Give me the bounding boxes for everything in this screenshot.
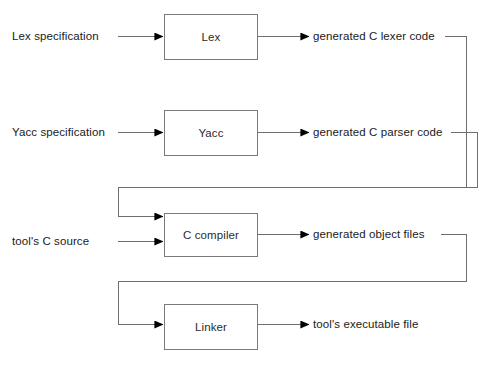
- output-label-c-parser-code: generated C parser code: [313, 127, 443, 139]
- process-box-c-compiler-label: C compiler: [183, 229, 239, 241]
- output-label-c-lexer-code: generated C lexer code: [313, 31, 435, 43]
- flowchart-diagram: Lex Yacc C compiler Linker Lex specifica…: [0, 0, 486, 368]
- edge-parsercode-route: [451, 133, 478, 188]
- process-box-lex[interactable]: Lex: [164, 14, 258, 60]
- process-box-yacc-label: Yacc: [198, 127, 223, 139]
- process-box-yacc[interactable]: Yacc: [164, 110, 258, 156]
- output-label-object-files: generated object files: [313, 229, 425, 241]
- output-label-executable-file: tool's executable file: [313, 319, 418, 331]
- process-box-linker[interactable]: Linker: [164, 304, 258, 350]
- process-box-lex-label: Lex: [202, 31, 221, 43]
- process-box-linker-label: Linker: [195, 321, 227, 333]
- input-label-yacc-specification: Yacc specification: [12, 127, 105, 139]
- process-box-c-compiler[interactable]: C compiler: [164, 213, 258, 257]
- input-label-lex-specification: Lex specification: [12, 31, 99, 43]
- input-label-tool-c-source: tool's C source: [12, 236, 89, 248]
